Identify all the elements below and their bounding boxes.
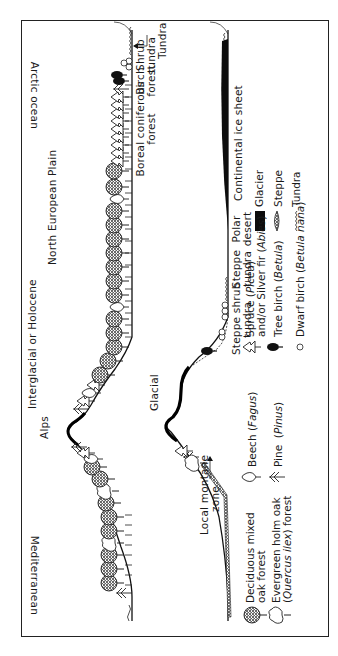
legend-fir-pre: and/or Silver fir ( xyxy=(255,248,267,337)
label-local-montane-zone: Local montane zone xyxy=(199,463,221,535)
ice-sheet-shape xyxy=(221,39,228,230)
legend-dwarf-birch: Dwarf birch (Betula nana) xyxy=(295,202,306,337)
label-local-montane-line2: zone xyxy=(210,463,221,535)
legend-holm-oak: Evergreen holm oak (Quercus ilex) forest xyxy=(271,496,293,603)
legend-holm-post: ) forest xyxy=(281,496,293,534)
legend-pine: Pine (Pinus) xyxy=(273,402,284,467)
legend-spruce: Spruce (Picea) and/or Silver fir (Abies) xyxy=(245,216,267,337)
label-alps: Alps xyxy=(39,416,50,439)
legend-pine-post: ) xyxy=(272,402,284,406)
label-interglacial-title: Interglacial or Holocene xyxy=(27,279,38,409)
legend-birch-post: ) xyxy=(272,240,284,244)
legend-pine-italic: Pinus xyxy=(272,406,284,434)
label-continental-ice-sheet: Continental ice sheet xyxy=(233,85,244,201)
legend-steppe: Steppe xyxy=(273,170,284,207)
label-arctic-ocean: Arctic ocean xyxy=(29,62,40,129)
legend-holm-italic: Quercus ilex xyxy=(281,533,293,598)
legend-fir-italic: Abies xyxy=(255,220,267,249)
legend-beech-italic: Fagus xyxy=(246,396,258,427)
label-north-european-plain: North European Plain xyxy=(47,150,58,265)
vegetation-transect-diagram: Mediterranean Alps Interglacial or Holoc… xyxy=(21,20,329,637)
legend-deciduous-line2: oak forest xyxy=(256,512,267,603)
label-shrub-tundra: Shrub tundra xyxy=(135,35,157,75)
legend-dwarf-italic: Betula nana xyxy=(294,206,306,269)
legend-tree-birch: Tree birch (Betula) xyxy=(273,240,284,337)
legend-fir-post: ) xyxy=(255,216,267,220)
legend-beech-post: ) xyxy=(246,392,258,396)
legend-holm-line2: (Quercus ilex) forest xyxy=(282,496,293,603)
legend-pine-pre: Pine ( xyxy=(272,434,284,467)
legend-beech: Beech (Fagus) xyxy=(247,392,258,467)
legend-spruce-line2: and/or Silver fir (Abies) xyxy=(256,216,267,337)
legend-glacier: Glacier xyxy=(254,170,265,207)
label-glacial-title: Glacial xyxy=(149,374,160,411)
legend-holm-pre: ( xyxy=(281,599,293,603)
label-mediterranean: Mediterranean xyxy=(29,536,40,615)
label-tundra: Tundra xyxy=(157,22,168,59)
legend-beech-pre: Beech ( xyxy=(246,427,258,467)
legend-deciduous-oak: Deciduous mixed oak forest xyxy=(245,512,267,603)
legend-dwarf-pre: Dwarf birch ( xyxy=(294,269,306,337)
legend-tundra: Tundra xyxy=(291,171,302,207)
legend-birch-pre: Tree birch ( xyxy=(272,278,284,337)
legend-birch-italic: Betula xyxy=(272,244,284,278)
